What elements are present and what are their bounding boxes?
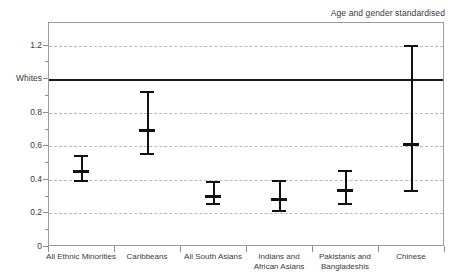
x-axis-category-label: Indians and African Asians bbox=[254, 252, 305, 272]
error-bar-lower-cap bbox=[74, 180, 88, 182]
reference-line-whites bbox=[49, 79, 443, 81]
y-axis-minor-tick-mark bbox=[45, 196, 48, 197]
error-bar-lower-cap bbox=[338, 203, 352, 205]
error-bar-stem bbox=[411, 45, 413, 192]
y-axis-tick-mark bbox=[43, 212, 48, 213]
error-bar-stem bbox=[147, 91, 149, 155]
y-axis-tick-label: 1.2 bbox=[30, 40, 42, 50]
y-axis-minor-tick-mark bbox=[45, 95, 48, 96]
error-bar-point-estimate bbox=[337, 189, 353, 192]
error-bar-lower-cap bbox=[272, 210, 286, 212]
error-bar-upper-cap bbox=[338, 170, 352, 172]
y-axis-tick-label: 0.4 bbox=[30, 174, 42, 184]
error-bar-upper-cap bbox=[404, 45, 418, 47]
y-axis-tick-mark bbox=[43, 45, 48, 46]
error-bar-upper-cap bbox=[140, 91, 154, 93]
y-axis-tick-mark bbox=[43, 112, 48, 113]
error-bar-upper-cap bbox=[272, 180, 286, 182]
x-axis-category-label: All South Asians bbox=[184, 252, 242, 262]
x-axis-category-label: Chinese bbox=[396, 252, 425, 262]
error-bar-lower-cap bbox=[404, 190, 418, 192]
chart-annotation: Age and gender standardised bbox=[331, 8, 445, 18]
error-bar-point-estimate bbox=[403, 143, 419, 146]
y-axis-tick-label: 0 bbox=[37, 241, 42, 251]
error-bar-lower-cap bbox=[206, 203, 220, 205]
y-axis-minor-tick-mark bbox=[45, 61, 48, 62]
error-bar-lower-cap bbox=[140, 153, 154, 155]
x-axis-tick-mark bbox=[180, 246, 181, 252]
x-axis-category-label: All Ethnic Minorities bbox=[46, 252, 116, 262]
error-bar-stem bbox=[213, 181, 215, 205]
y-axis-tick-label: 0.6 bbox=[30, 140, 42, 150]
y-axis-minor-tick-mark bbox=[45, 162, 48, 163]
gridline-0.2 bbox=[49, 213, 443, 214]
x-axis-tick-mark bbox=[378, 246, 379, 252]
x-axis-tick-mark bbox=[312, 246, 313, 252]
error-bar-stem bbox=[279, 180, 281, 212]
y-axis-minor-tick-mark bbox=[45, 229, 48, 230]
y-axis-tick-label: Whites bbox=[16, 73, 42, 83]
y-axis-tick-label: 0.2 bbox=[30, 207, 42, 217]
x-axis-category-label: Pakistanis and Bangladeshis bbox=[319, 252, 371, 272]
y-axis-tick-mark bbox=[43, 145, 48, 146]
gridline-0.8 bbox=[49, 113, 443, 114]
error-bar-point-estimate bbox=[73, 170, 89, 173]
error-bar-upper-cap bbox=[74, 155, 88, 157]
gridline-1.2 bbox=[49, 46, 443, 47]
gridline-0.4 bbox=[49, 180, 443, 181]
y-axis-tick-mark bbox=[43, 78, 48, 79]
error-bar-upper-cap bbox=[206, 181, 220, 183]
chart-container: Age and gender standardised 1.2Whites0.8… bbox=[0, 0, 463, 280]
error-bar-point-estimate bbox=[271, 198, 287, 201]
error-bar-point-estimate bbox=[205, 195, 221, 198]
y-axis-minor-tick-mark bbox=[45, 129, 48, 130]
y-axis-tick-mark bbox=[43, 179, 48, 180]
plot-area bbox=[48, 22, 444, 246]
gridline-0.6 bbox=[49, 146, 443, 147]
error-bar-stem bbox=[345, 170, 347, 205]
x-axis-tick-mark bbox=[114, 246, 115, 252]
x-axis-category-label: Caribbeans bbox=[127, 252, 168, 262]
y-axis-tick-label: 0.8 bbox=[30, 107, 42, 117]
x-axis-tick-mark bbox=[444, 246, 445, 252]
error-bar-point-estimate bbox=[139, 129, 155, 132]
x-axis-tick-mark bbox=[246, 246, 247, 252]
